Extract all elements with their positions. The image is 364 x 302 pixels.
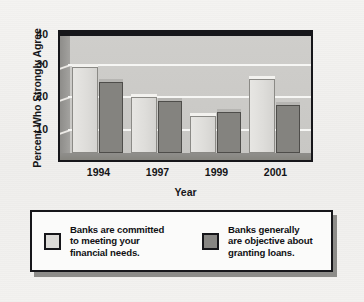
- legend-label-2-line2: are objective about: [228, 235, 313, 247]
- legend-swatch-light-icon: [44, 233, 61, 250]
- cut-off-caption-text: [0, 288, 364, 302]
- bar-1997-series2: [158, 101, 182, 153]
- legend-label-1-line1: Banks are committed: [70, 224, 164, 236]
- chart-legend: Banks are committed to meeting your fina…: [30, 210, 333, 272]
- bars-layer: [68, 34, 311, 153]
- legend-label-1-line2: to meeting your: [70, 235, 164, 247]
- legend-label-2: Banks generally are objective about gran…: [228, 224, 313, 259]
- bar-2001-series2: [276, 105, 300, 153]
- x-tick-label-1999: 1999: [188, 166, 245, 178]
- legend-label-2-line3: granting loans.: [228, 247, 313, 259]
- y-tick-label-10: 10: [36, 123, 48, 135]
- legend-entry-objective-granting-loans: Banks generally are objective about gran…: [202, 224, 330, 259]
- bar-1994-series2: [99, 82, 123, 153]
- bar-face: [249, 79, 275, 153]
- x-tick-label-1997: 1997: [129, 166, 186, 178]
- legend-entry-committed-to-needs: Banks are committed to meeting your fina…: [44, 224, 196, 259]
- bar-1997-series1: [131, 97, 157, 153]
- legend-label-1: Banks are committed to meeting your fina…: [70, 224, 164, 259]
- y-axis-tick-labels: 40 30 20 10: [14, 28, 48, 161]
- bar-group-2001: [247, 34, 304, 153]
- bar-1999-series2: [217, 112, 241, 153]
- y-tick-label-40: 40: [36, 28, 48, 40]
- y-tick-label-30: 30: [36, 58, 48, 70]
- bar-group-1994: [70, 34, 127, 153]
- bar-1994-series1: [72, 67, 98, 153]
- x-axis-title: Year: [58, 186, 313, 198]
- bar-face: [99, 82, 123, 153]
- plot-area: [58, 30, 313, 162]
- x-tick-label-2001: 2001: [247, 166, 304, 178]
- bar-face: [158, 101, 182, 153]
- y-tick-label-20: 20: [36, 90, 48, 102]
- legend-label-1-line3: financial needs.: [70, 247, 164, 259]
- bar-group-1999: [188, 34, 245, 153]
- x-axis-tick-labels: 1994 1997 1999 2001: [58, 166, 313, 180]
- bar-1999-series1: [190, 116, 216, 153]
- x-tick-label-1994: 1994: [70, 166, 127, 178]
- bar-face: [190, 116, 216, 153]
- plot-floor: [60, 153, 311, 160]
- bar-chart-figure: Percent Who Strongly Agree 40 30 20 10: [0, 0, 364, 302]
- bar-group-1997: [129, 34, 186, 153]
- bar-face: [217, 112, 241, 153]
- legend-swatch-dark-icon: [202, 233, 219, 250]
- bar-face: [72, 67, 98, 153]
- bar-2001-series1: [249, 79, 275, 153]
- legend-label-2-line1: Banks generally: [228, 224, 313, 236]
- bar-face: [276, 105, 300, 153]
- bar-face: [131, 97, 157, 153]
